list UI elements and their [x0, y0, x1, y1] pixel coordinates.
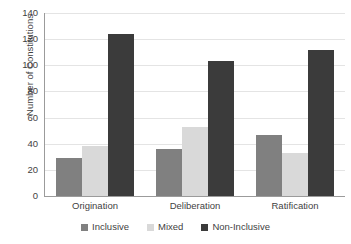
legend-swatch-icon [147, 224, 154, 231]
y-axis-tick-label: 120 [0, 34, 38, 44]
bar [256, 135, 282, 196]
bar-chart: Number of Constitutions 0204060801001201… [0, 0, 351, 244]
bar [108, 34, 134, 196]
bar-group [245, 13, 345, 196]
bar [308, 50, 334, 196]
legend-item: Mixed [147, 222, 183, 232]
bar-group [145, 13, 245, 196]
legend-label: Mixed [158, 222, 183, 232]
x-axis-line [45, 196, 345, 197]
legend-item: Inclusive [81, 222, 129, 232]
plot-area [45, 13, 345, 196]
legend-label: Non-Inclusive [212, 222, 270, 232]
y-axis-line [44, 13, 45, 197]
y-axis-tick-label: 40 [0, 139, 38, 149]
y-axis-tick-label: 100 [0, 60, 38, 70]
bar [208, 61, 234, 196]
legend-swatch-icon [81, 224, 88, 231]
legend-swatch-icon [201, 224, 208, 231]
bar [156, 149, 182, 196]
bar [182, 127, 208, 196]
y-axis-tick-label: 0 [0, 191, 38, 201]
y-axis-tick-label: 80 [0, 86, 38, 96]
legend-item: Non-Inclusive [201, 222, 270, 232]
y-axis-tick-label: 60 [0, 113, 38, 123]
x-axis-category-label: Origination [45, 200, 145, 212]
bar [56, 158, 82, 196]
bar [82, 146, 108, 196]
x-axis-category-label: Ratification [245, 200, 345, 212]
y-axis-tick-label: 140 [0, 8, 38, 18]
legend: InclusiveMixedNon-Inclusive [0, 222, 351, 232]
bar [282, 153, 308, 196]
legend-label: Inclusive [92, 222, 129, 232]
y-axis-tick-label: 20 [0, 165, 38, 175]
bar-group [45, 13, 145, 196]
x-axis-category-label: Deliberation [145, 200, 245, 212]
y-axis-title: Number of Constitutions [23, 0, 37, 155]
